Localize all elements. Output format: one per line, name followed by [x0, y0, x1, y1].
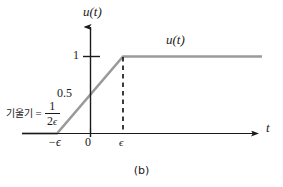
figure-panel: u(t) u(t) t 1 0.5 −ϵ 0 ϵ 기울기 = 1 2ϵ (b) [0, 0, 283, 187]
slope-annotation-korean-text: 기울기 [6, 109, 32, 119]
y-tick-label-0point5: 0.5 [57, 87, 72, 99]
slope-annotation: 기울기 = 1 2ϵ [6, 100, 60, 127]
x-axis-label: t [266, 121, 270, 134]
slope-fraction-denominator-epsilon: ϵ [53, 116, 57, 127]
plot-canvas [0, 0, 283, 187]
y-tick-label-1: 1 [73, 49, 79, 61]
x-tick-label-neg-epsilon: −ϵ [48, 136, 61, 148]
x-tick-label-epsilon: ϵ [119, 137, 123, 148]
slope-fraction-denominator: 2ϵ [45, 114, 59, 127]
slope-fraction: 1 2ϵ [45, 100, 60, 127]
figure-caption: (b) [0, 164, 283, 177]
slope-annotation-equals: = [35, 108, 41, 119]
curve-label: u(t) [166, 33, 185, 46]
y-axis-label: u(t) [83, 5, 102, 18]
slope-fraction-numerator: 1 [46, 100, 58, 113]
x-tick-label-zero: 0 [85, 136, 91, 148]
